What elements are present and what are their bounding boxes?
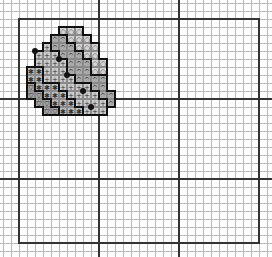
circle-symbol: ○ bbox=[83, 43, 91, 51]
french-knot-dot bbox=[88, 104, 94, 110]
outline-segment bbox=[114, 98, 116, 108]
plus-symbol: + bbox=[67, 83, 75, 91]
heavy-line-vertical bbox=[18, 18, 20, 244]
heavy-line-vertical bbox=[178, 0, 180, 257]
circle-symbol: ○ bbox=[75, 35, 83, 43]
plus-symbol: + bbox=[43, 59, 51, 67]
plus-symbol: + bbox=[51, 67, 59, 75]
caret-symbol: ^ bbox=[67, 59, 75, 67]
heavy-line-vertical bbox=[258, 18, 260, 244]
outline-segment bbox=[106, 106, 108, 116]
caret-symbol: ^ bbox=[75, 67, 83, 75]
heavy-line-vertical bbox=[98, 0, 100, 257]
caret-symbol: ^ bbox=[67, 51, 75, 59]
heavy-line-horizontal bbox=[18, 18, 260, 20]
outline-segment bbox=[82, 106, 84, 116]
graph-paper-grid bbox=[0, 0, 272, 257]
caret-symbol: ^ bbox=[75, 59, 83, 67]
outline-segment bbox=[26, 90, 28, 100]
asterisk-symbol: ✱ bbox=[59, 99, 67, 107]
plus-symbol: + bbox=[43, 67, 51, 75]
outline-segment bbox=[42, 106, 44, 116]
french-knot-dot bbox=[80, 88, 86, 94]
caret-symbol: ^ bbox=[91, 75, 99, 83]
asterisk-symbol: ✱ bbox=[43, 83, 51, 91]
heavy-line-horizontal bbox=[18, 242, 260, 244]
heavy-line-horizontal bbox=[0, 178, 272, 180]
french-knot-dot bbox=[56, 56, 62, 62]
outline-segment bbox=[34, 98, 36, 108]
caret-symbol: ^ bbox=[51, 35, 59, 43]
asterisk-symbol: ✱ bbox=[51, 91, 59, 99]
caret-symbol: ^ bbox=[59, 43, 67, 51]
asterisk-symbol: ✱ bbox=[27, 67, 35, 75]
outline-segment bbox=[58, 106, 60, 116]
french-knot-dot bbox=[32, 48, 38, 54]
circle-symbol: ○ bbox=[67, 27, 75, 35]
circle-symbol: ○ bbox=[91, 59, 99, 67]
plus-symbol: + bbox=[43, 51, 51, 59]
french-knot-dot bbox=[64, 72, 70, 78]
